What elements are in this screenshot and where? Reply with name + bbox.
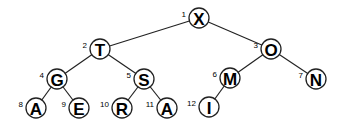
- node-label: T: [95, 41, 106, 60]
- node-index-label: 3: [254, 41, 259, 50]
- tree-node-6: M6: [213, 68, 240, 89]
- tree-node-10: R10: [100, 98, 132, 119]
- node-index-label: 8: [19, 100, 24, 109]
- tree-edges: [36, 18, 316, 108]
- tree-node-11: A11: [146, 98, 177, 119]
- node-label: A: [30, 100, 42, 119]
- tree-node-1: X1: [182, 8, 209, 29]
- tree-node-9: E9: [62, 98, 89, 119]
- node-label: S: [138, 71, 149, 90]
- node-label: O: [264, 41, 277, 60]
- node-label: A: [161, 100, 173, 119]
- tree-node-4: G4: [40, 69, 67, 90]
- node-index-label: 5: [127, 71, 132, 80]
- tree-edge-1-3: [199, 18, 271, 49]
- tree-node-8: A8: [19, 98, 46, 119]
- node-index-label: 9: [62, 100, 67, 109]
- tree-edge-1-2: [100, 18, 199, 49]
- node-index-label: 2: [83, 41, 88, 50]
- node-index-label: 11: [146, 100, 155, 109]
- tree-node-5: S5: [127, 69, 154, 90]
- node-index-label: 10: [100, 100, 109, 109]
- binary-tree-diagram: X1T2O3G4S5M6N7A8E9R10A11I12: [0, 0, 346, 130]
- node-label: I: [207, 99, 212, 118]
- node-index-label: 12: [187, 99, 196, 108]
- tree-node-12: I12: [187, 97, 219, 118]
- node-label: N: [310, 71, 322, 90]
- tree-node-7: N7: [299, 69, 326, 90]
- tree-node-3: O3: [254, 39, 281, 60]
- node-index-label: 6: [213, 70, 218, 79]
- node-label: E: [73, 100, 84, 119]
- tree-node-2: T2: [83, 39, 110, 60]
- node-index-label: 7: [299, 71, 304, 80]
- node-index-label: 1: [182, 10, 187, 19]
- node-label: X: [193, 10, 205, 29]
- node-label: G: [50, 71, 63, 90]
- node-index-label: 4: [40, 71, 45, 80]
- node-label: R: [116, 100, 128, 119]
- tree-nodes: X1T2O3G4S5M6N7A8E9R10A11I12: [19, 8, 326, 119]
- node-label: M: [223, 70, 237, 89]
